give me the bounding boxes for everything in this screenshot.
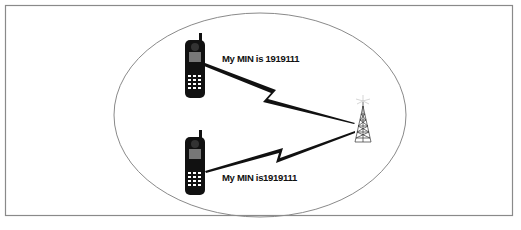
- phone-top-min-label: My MIN is 1919111: [222, 53, 300, 64]
- phone-bottom-min-label: My MIN is1919111: [222, 172, 298, 183]
- diagram-canvas: My MIN is 1919111 My MIN is1919111: [0, 0, 521, 230]
- mobile-phone-icon: [185, 130, 205, 195]
- mobile-phone-icon: [185, 33, 205, 98]
- diagram-frame: [6, 6, 513, 216]
